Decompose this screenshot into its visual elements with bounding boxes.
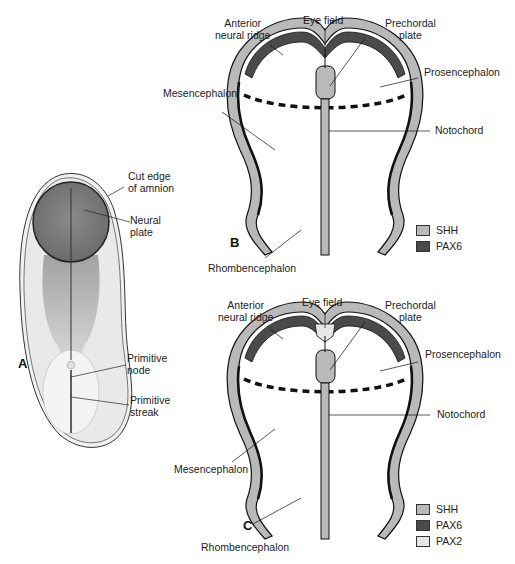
- label-prechordal-plate-c: Prechordal plate: [385, 299, 436, 323]
- legend-item-shh: SHH: [416, 502, 462, 516]
- swatch-pax6: [416, 241, 430, 252]
- label-prosencephalon-c: Prosencephalon: [425, 348, 501, 360]
- legend-item-pax6: PAX6: [416, 239, 462, 253]
- label-rhombencephalon-b: Rhombencephalon: [208, 262, 296, 274]
- label-neural-plate: Neural plate: [130, 214, 161, 238]
- panel-letter-a: A: [18, 356, 27, 371]
- legend-item-pax6: PAX6: [416, 518, 462, 532]
- brain-diagram-panel-b: [222, 18, 430, 258]
- label-cut-edge-of-amnion: Cut edge of amnion: [128, 170, 174, 194]
- label-anterior-neural-ridge-b: Anterior neural ridge: [215, 17, 270, 41]
- brain-diagram-panel-c: [227, 302, 430, 539]
- label-notochord-c: Notochord: [437, 408, 485, 420]
- label-primitive-node: Primitive node: [127, 352, 167, 376]
- legend-panel-c: SHH PAX6 PAX2: [416, 502, 462, 550]
- swatch-pax6: [416, 520, 430, 531]
- label-rhombencephalon-c: Rhombencephalon: [201, 541, 289, 553]
- label-notochord-b: Notochord: [435, 124, 483, 136]
- figure-canvas: [0, 0, 515, 564]
- swatch-pax2: [416, 536, 430, 547]
- label-primitive-streak: Primitive streak: [130, 394, 170, 418]
- panel-letter-c: C: [243, 518, 252, 533]
- swatch-shh: [416, 504, 430, 515]
- label-prechordal-plate-b: Prechordal plate: [385, 17, 436, 41]
- legend-item-pax2: PAX2: [416, 534, 462, 548]
- swatch-shh: [416, 225, 430, 236]
- embryo-panel-a: [20, 173, 132, 447]
- panel-letter-b: B: [230, 235, 239, 250]
- legend-panel-b: SHH PAX6: [416, 223, 462, 255]
- label-eye-field-c: Eye field: [302, 296, 342, 308]
- legend-item-shh: SHH: [416, 223, 462, 237]
- label-mesencephalon-b: Mesencephalon: [163, 87, 237, 99]
- label-prosencephalon-b: Prosencephalon: [424, 66, 500, 78]
- label-eye-field-b: Eye field: [303, 14, 343, 26]
- label-anterior-neural-ridge-c: Anterior neural ridge: [218, 299, 273, 323]
- label-mesencephalon-c: Mesencephalon: [174, 463, 248, 475]
